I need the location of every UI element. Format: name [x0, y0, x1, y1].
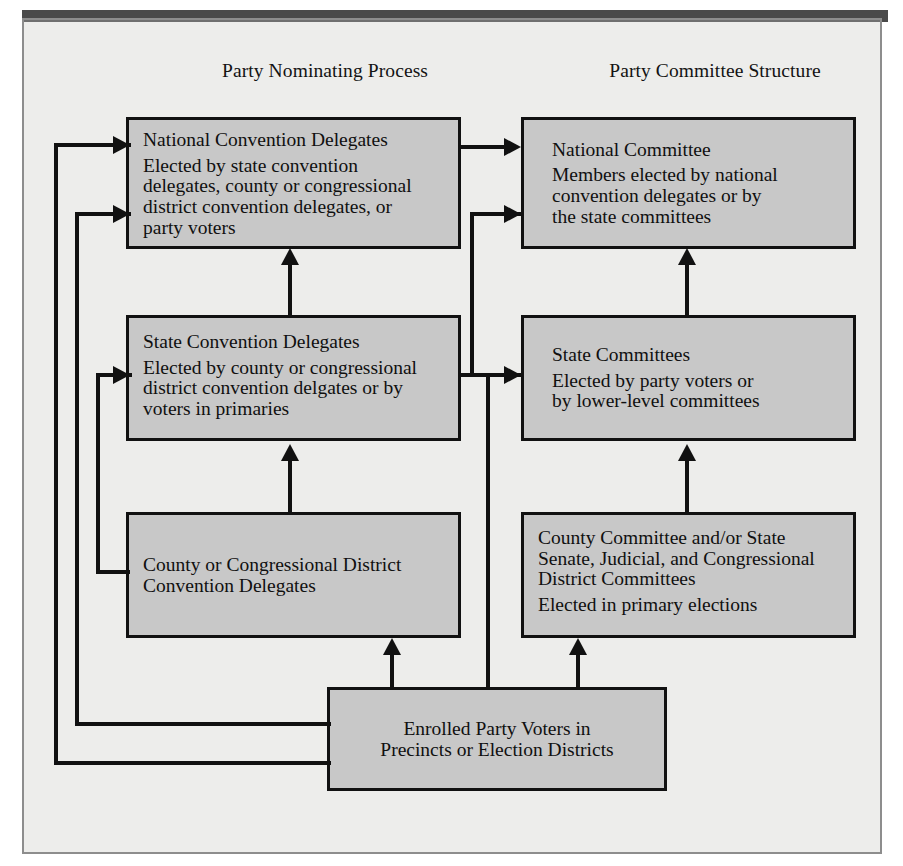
node-description: Precincts or Election Districts [344, 740, 650, 761]
connector-voters-to-statecomm-riser [486, 373, 490, 689]
frame-shadow [24, 20, 880, 22]
node-description: Members elected by national convention d… [552, 165, 839, 227]
node-national-convention-delegates[interactable]: National Convention Delegates Elected by… [126, 117, 461, 249]
connector-voters-to-countyconv [390, 652, 394, 689]
node-description: Convention Delegates [143, 576, 444, 597]
connector-countyconv-to-stateconv [288, 458, 292, 512]
connector-voters-to-countycomm [576, 652, 580, 689]
node-county-convention-delegates[interactable]: County or Congressional District Convent… [126, 512, 461, 638]
arrowhead-countyconv-to-stateconv [281, 444, 299, 461]
arrowhead-statecomm-to-natcomm [678, 248, 696, 265]
node-description: Senate, Judicial, and Congressional Dist… [538, 549, 839, 616]
arrowhead-stateconv-to-natcomm [504, 205, 521, 223]
arrowhead-voters-to-countyconv [383, 638, 401, 655]
connector-natconv-to-natcomm [461, 145, 508, 149]
node-description: Elected by county or congressional distr… [143, 358, 444, 420]
connector-voters-loop-outer-out [54, 761, 331, 765]
node-title: Enrolled Party Voters in [344, 718, 650, 740]
node-title: National Convention Delegates [143, 129, 444, 151]
node-description: Elected by state convention delegates, c… [143, 156, 444, 239]
arrowhead-voters-to-countycomm [569, 638, 587, 655]
node-enrolled-party-voters[interactable]: Enrolled Party Voters in Precincts or El… [327, 687, 667, 791]
column-heading-nominating: Party Nominating Process [175, 60, 475, 82]
connector-countyconv-loop-out [96, 570, 130, 574]
connector-statecomm-to-natcomm [685, 262, 689, 315]
figure-canvas: Party Nominating Process Party Committee… [0, 0, 903, 866]
arrowhead-voters-to-natconv-mid [113, 205, 130, 223]
node-title: State Committees [552, 344, 839, 366]
node-title: County or Congressional District [143, 554, 444, 576]
arrowhead-countyconv-to-stateconv-loop [113, 366, 130, 384]
node-national-committee[interactable]: National Committee Members elected by na… [521, 117, 856, 249]
connector-countyconv-loop-riser [96, 373, 100, 574]
node-state-committees[interactable]: State Committees Elected by party voters… [521, 315, 856, 441]
connector-stateconv-to-natcomm-riser [470, 212, 474, 377]
connector-stateconv-to-natcomm-out [461, 373, 488, 377]
connector-stateconv-to-natconv [288, 262, 292, 315]
arrowhead-voters-to-statecomm [504, 366, 521, 384]
node-title: National Committee [552, 139, 839, 161]
node-state-convention-delegates[interactable]: State Convention Delegates Elected by co… [126, 315, 461, 441]
connector-countycomm-to-statecomm [685, 458, 689, 512]
connector-voters-loop-mid-out [75, 722, 331, 726]
node-title: County Committee and/or State [538, 527, 839, 549]
node-description: Elected by party voters or by lower-leve… [552, 371, 839, 412]
arrowhead-stateconv-to-natconv [281, 248, 299, 265]
arrowhead-countycomm-to-statecomm [678, 444, 696, 461]
arrowhead-voters-to-natconv-outer [113, 136, 130, 154]
connector-voters-loop-mid-riser [75, 212, 79, 726]
column-heading-committee: Party Committee Structure [565, 60, 865, 82]
node-county-committee[interactable]: County Committee and/or State Senate, Ju… [521, 512, 856, 638]
node-title: State Convention Delegates [143, 331, 444, 353]
arrowhead-natconv-to-natcomm [504, 138, 521, 156]
connector-voters-loop-outer-riser [54, 143, 58, 765]
